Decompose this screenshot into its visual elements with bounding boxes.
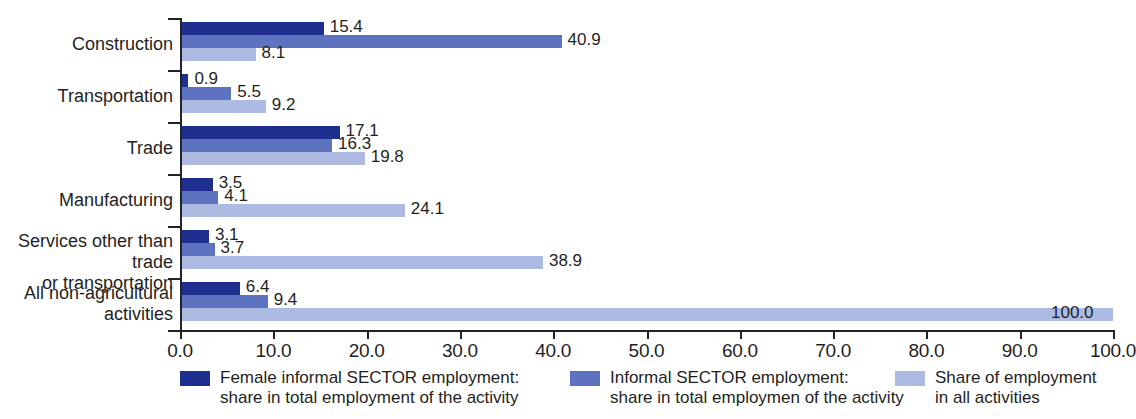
bar (180, 243, 215, 256)
category-label: Transportation (58, 86, 173, 107)
y-axis-tick (168, 122, 180, 124)
x-axis-tick-label: 10.0 (255, 340, 291, 362)
bar-value-label: 3.7 (221, 241, 245, 254)
x-axis-tick (647, 332, 649, 339)
bar (180, 191, 218, 204)
bar-value-label: 9.4 (274, 293, 298, 306)
bar (180, 282, 240, 295)
bar-value-label: 24.1 (411, 202, 444, 215)
bar-value-label: 8.1 (262, 46, 286, 59)
legend-swatch (570, 371, 600, 386)
bar (180, 152, 365, 165)
y-axis-tick (168, 70, 180, 72)
legend-item[interactable]: Informal SECTOR employment: share in tot… (570, 368, 904, 408)
category-label: All non-agricultural activities (24, 283, 173, 325)
x-axis-tick-label: 20.0 (349, 340, 385, 362)
x-axis-tick (740, 332, 742, 339)
legend-label: Share of employment in all activities (935, 368, 1097, 408)
bar (180, 126, 340, 139)
x-axis-tick (273, 332, 275, 339)
y-axis-tick (168, 174, 180, 176)
bar-value-label: 0.9 (194, 72, 218, 85)
x-axis-tick-label: 50.0 (629, 340, 665, 362)
bar-value-label: 100.0 (1051, 306, 1094, 319)
bar (180, 308, 1113, 321)
bar (180, 178, 213, 191)
bar-value-label: 19.8 (371, 150, 404, 163)
x-axis-tick-label: 90.0 (1002, 340, 1038, 362)
y-axis-line (180, 18, 182, 331)
bar-value-label: 5.5 (237, 85, 261, 98)
x-axis-tick-label: 60.0 (722, 340, 758, 362)
y-axis-tick (168, 18, 180, 20)
legend-label: Informal SECTOR employment: share in tot… (610, 368, 904, 408)
y-axis-tick (168, 226, 180, 228)
bar-value-label: 4.1 (224, 189, 248, 202)
y-axis-tick (168, 330, 180, 332)
x-axis-tick (553, 332, 555, 339)
x-axis-tick-label: 40.0 (535, 340, 571, 362)
legend-swatch (895, 371, 925, 386)
bar (180, 256, 543, 269)
x-axis-tick-label: 100.0 (1090, 340, 1136, 362)
x-axis-tick-label: 30.0 (442, 340, 478, 362)
bar (180, 87, 231, 100)
bar (180, 35, 562, 48)
x-axis-tick (1020, 332, 1022, 339)
bar (180, 295, 268, 308)
legend-label: Female informal SECTOR employment: share… (220, 368, 519, 408)
x-axis-tick (833, 332, 835, 339)
x-axis-tick-label: 80.0 (909, 340, 945, 362)
bar (180, 230, 209, 243)
bar (180, 100, 266, 113)
x-axis-tick (460, 332, 462, 339)
chart-legend: Female informal SECTOR employment: share… (0, 366, 1130, 419)
x-axis-tick (926, 332, 928, 339)
x-axis-tick (180, 332, 182, 339)
legend-item[interactable]: Share of employment in all activities (895, 368, 1097, 408)
legend-item[interactable]: Female informal SECTOR employment: share… (180, 368, 519, 408)
category-label: Trade (127, 138, 173, 159)
bar-value-label: 40.9 (568, 33, 601, 46)
bar (180, 22, 324, 35)
bar-value-label: 6.4 (246, 280, 270, 293)
x-axis-tick (1113, 332, 1115, 339)
x-axis-tick (367, 332, 369, 339)
x-axis-tick-label: 70.0 (815, 340, 851, 362)
bar (180, 139, 332, 152)
bar-value-label: 15.4 (330, 20, 363, 33)
bar-value-label: 16.3 (338, 137, 371, 150)
legend-swatch (180, 371, 210, 386)
bar-value-label: 38.9 (549, 254, 582, 267)
category-label: Manufacturing (59, 190, 173, 211)
bar (180, 204, 405, 217)
x-axis-tick-label: 0.0 (167, 340, 193, 362)
category-label: Construction (72, 34, 173, 55)
bar (180, 48, 256, 61)
bar-value-label: 9.2 (272, 98, 296, 111)
plot-area: 15.440.98.10.95.59.217.116.319.83.54.124… (180, 18, 1113, 330)
